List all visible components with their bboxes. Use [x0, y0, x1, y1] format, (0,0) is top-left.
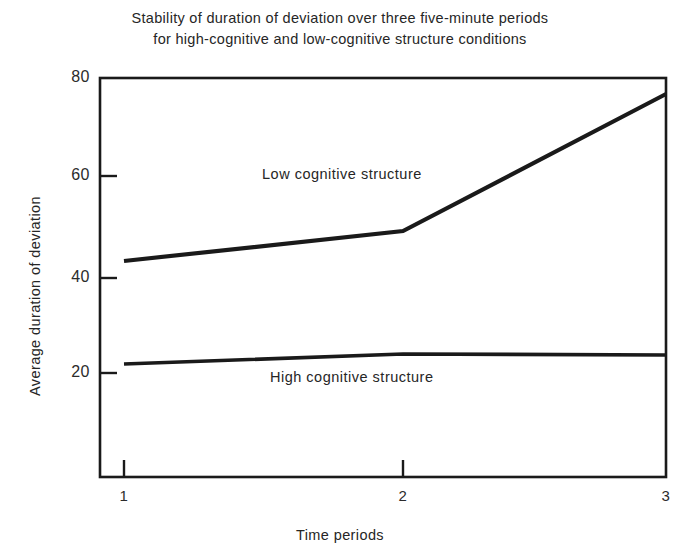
- ytick-label-20: 20: [44, 363, 90, 381]
- ytick-label-80: 80: [44, 68, 90, 86]
- x-axis-title: Time periods: [0, 527, 680, 543]
- ytick-label-40: 40: [44, 268, 90, 286]
- series-line-high-cognitive-structure: [124, 354, 666, 364]
- xtick-label-1: 1: [109, 487, 139, 504]
- plot-area: [0, 0, 680, 558]
- y-axis-title: Average duration of deviation: [27, 156, 43, 436]
- series-annotation-high-cognitive-structure: High cognitive structure: [270, 369, 434, 385]
- ytick-label-60: 60: [44, 166, 90, 184]
- xtick-label-3: 3: [651, 487, 680, 504]
- series-annotation-low-cognitive-structure: Low cognitive structure: [262, 166, 422, 182]
- chart-figure: Stability of duration of deviation over …: [0, 0, 680, 558]
- xtick-label-2: 2: [388, 487, 418, 504]
